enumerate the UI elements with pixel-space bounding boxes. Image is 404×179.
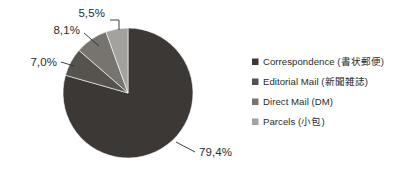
legend-label-editorial-mail: Editorial Mail (新聞雑誌) bbox=[263, 76, 368, 87]
legend-item-editorial-mail[interactable]: Editorial Mail (新聞雑誌) bbox=[252, 76, 368, 87]
legend-swatch-parcels bbox=[252, 119, 259, 126]
legend-label-direct-mail: Direct Mail (DM) bbox=[263, 96, 333, 107]
chart-canvas: 5,5% 8,1% 7,0% 79,4% Correspondence (書状郵… bbox=[0, 0, 404, 179]
callout-correspondence: 79,4% bbox=[199, 146, 232, 158]
pie-chart-figure: 5,5% 8,1% 7,0% 79,4% Correspondence (書状郵… bbox=[0, 0, 404, 179]
callout-parcels: 5,5% bbox=[78, 7, 105, 19]
legend-item-parcels[interactable]: Parcels (小包) bbox=[252, 116, 325, 127]
legend-label-parcels: Parcels (小包) bbox=[263, 116, 325, 127]
legend-item-direct-mail[interactable]: Direct Mail (DM) bbox=[252, 96, 333, 107]
legend-swatch-editorial-mail bbox=[252, 79, 259, 86]
legend-label-correspondence: Correspondence (書状郵便) bbox=[263, 56, 384, 67]
legend-swatch-direct-mail bbox=[252, 99, 259, 106]
legend-swatch-correspondence bbox=[252, 59, 259, 66]
callout-editorial-mail: 7,0% bbox=[30, 56, 57, 68]
callout-direct-mail: 8,1% bbox=[53, 24, 80, 36]
pie-slices bbox=[63, 28, 193, 158]
legend-item-correspondence[interactable]: Correspondence (書状郵便) bbox=[252, 56, 384, 67]
